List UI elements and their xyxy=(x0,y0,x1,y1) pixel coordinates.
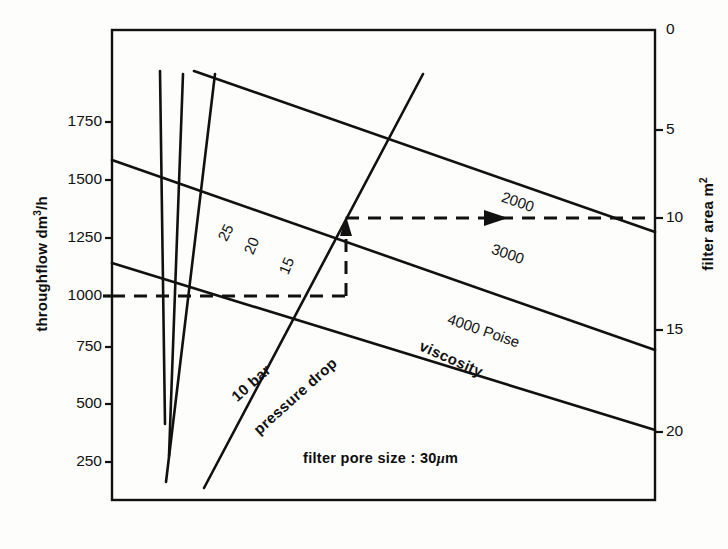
pressure-line-25 xyxy=(160,71,165,424)
right-tick-label-10: 10 xyxy=(666,208,706,226)
right-axis-title-main: filter area m xyxy=(699,183,716,271)
arrowhead-right-icon xyxy=(484,210,508,226)
left-tick-label-1500: 1500 xyxy=(42,170,102,188)
right-tick-label-5: 5 xyxy=(666,120,706,138)
left-tick-label-1250: 1250 xyxy=(42,228,102,246)
plot-svg xyxy=(112,30,655,500)
left-axis-title-tail: /h xyxy=(33,196,50,210)
left-axis-title-exponent: 3 xyxy=(32,210,43,216)
plot-frame xyxy=(112,30,655,500)
right-tick-label-0: 0 xyxy=(666,20,706,38)
pressure-drop-lines xyxy=(160,71,423,488)
right-tick-label-15: 15 xyxy=(666,320,706,338)
right-tick-label-20: 20 xyxy=(666,422,706,440)
right-axis-title-exponent: 2 xyxy=(698,177,709,183)
left-tick-label-1750: 1750 xyxy=(42,112,102,130)
viscosity-line-4000 xyxy=(112,263,655,430)
pressure-line-10 xyxy=(204,74,423,488)
viscosity-line-2000 xyxy=(194,71,655,232)
left-tick-label-250: 250 xyxy=(42,452,102,470)
pressure-line-15 xyxy=(166,74,215,482)
left-tick-label-750: 750 xyxy=(42,337,102,355)
figure-annotation: filter pore size : 30μm xyxy=(303,450,458,467)
micro-sign-icon: μ xyxy=(437,450,445,466)
nomogram-figure: throughflow dm3/h filter area m2 1750 15… xyxy=(0,0,728,549)
left-tick-label-500: 500 xyxy=(42,394,102,412)
plot-area xyxy=(112,30,655,500)
left-tick-label-1000: 1000 xyxy=(42,286,102,304)
figure-annotation-unit: m xyxy=(445,450,458,466)
figure-annotation-text: filter pore size : 30 xyxy=(303,450,437,466)
